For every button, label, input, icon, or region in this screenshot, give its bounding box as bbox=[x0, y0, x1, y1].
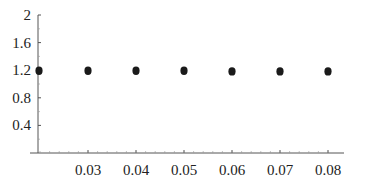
x-tick-label: 0.03 bbox=[75, 162, 101, 178]
y-tick-label: 1.6 bbox=[12, 35, 31, 51]
data-point bbox=[180, 67, 187, 75]
x-tick-label: 0.04 bbox=[123, 162, 150, 178]
x-tick-label: 0.07 bbox=[267, 162, 294, 178]
y-axis: 0.40.81.21.62 bbox=[12, 7, 41, 153]
data-point bbox=[35, 67, 42, 75]
y-tick-label: 0.8 bbox=[12, 90, 31, 106]
x-tick-label: 0.08 bbox=[315, 162, 341, 178]
data-point bbox=[276, 67, 283, 75]
data-point bbox=[228, 67, 235, 75]
y-tick-label: 2 bbox=[24, 7, 32, 23]
scatter-chart: 0.40.81.21.62 0.030.040.050.060.070.08 bbox=[0, 0, 380, 183]
x-axis: 0.030.040.050.060.070.08 bbox=[30, 150, 344, 178]
data-point bbox=[84, 67, 91, 75]
y-tick-label: 0.4 bbox=[12, 117, 31, 133]
data-points bbox=[35, 67, 331, 76]
x-tick-label: 0.06 bbox=[219, 162, 246, 178]
data-point bbox=[132, 67, 139, 75]
x-tick-label: 0.05 bbox=[171, 162, 197, 178]
data-point bbox=[324, 67, 331, 75]
y-tick-label: 1.2 bbox=[12, 62, 31, 78]
